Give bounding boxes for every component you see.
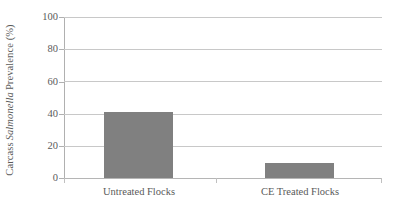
gridline-60 (64, 81, 382, 82)
y-tick-label-0: 0 (28, 173, 58, 183)
y-tick-label-80: 80 (28, 44, 58, 54)
bar-ce-treated-flocks (265, 163, 334, 178)
plot-area (64, 17, 382, 178)
y-axis-title: Carcass Salmonella Prevalence (%) (0, 5, 18, 195)
y-tick-label-60: 60 (28, 77, 58, 87)
gridline-80 (64, 49, 382, 50)
x-tickmark-right (381, 178, 382, 183)
x-tickmark-left (64, 178, 65, 183)
gridline-100 (64, 17, 382, 18)
x-axis-label-untreated-flocks: Untreated Flocks (103, 186, 175, 198)
y-axis-title-suffix: Prevalence (%) (4, 24, 15, 90)
y-axis-title-prefix: Carcass (4, 142, 15, 175)
y-tick-label-100: 100 (28, 12, 58, 22)
y-axis-tick-labels: 100 80 60 40 20 0 (28, 0, 58, 213)
bar-chart-figure: Carcass Salmonella Prevalence (%) 100 80… (0, 0, 401, 213)
y-axis-title-italic-term: Salmonella (4, 90, 15, 142)
gridline-baseline-0 (64, 178, 382, 179)
x-axis-label-ce-treated-flocks: CE Treated Flocks (261, 186, 339, 198)
bar-untreated-flocks (104, 112, 173, 178)
y-tick-label-20: 20 (28, 141, 58, 151)
y-tick-label-40: 40 (28, 109, 58, 119)
x-tickmark-middle (216, 178, 217, 183)
